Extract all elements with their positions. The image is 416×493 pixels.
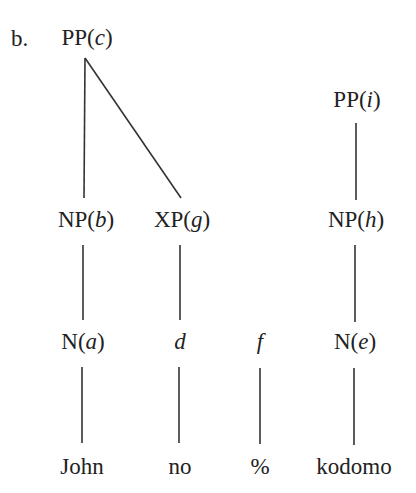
node-index: i [367,87,373,112]
node-category: XP [154,207,183,232]
node-index: b [95,207,107,232]
word-kodomo: kodomo [316,455,391,478]
node-index: g [191,207,203,232]
node-index: c [95,25,105,50]
word-percent: % [250,455,269,478]
node-np-b: NP(b) [58,208,114,231]
word-john: John [60,455,103,478]
node-np-h: NP(h) [328,208,384,231]
node-category: N [61,329,78,354]
node-n-a: N(a) [61,330,104,353]
node-index: h [365,207,377,232]
example-label: b. [11,26,28,52]
node-d: d [174,330,186,353]
node-f: f [257,330,263,353]
word-no: no [169,455,192,478]
node-pp-i: PP(i) [333,88,380,111]
node-index: a [86,329,98,354]
node-n-e: N(e) [334,330,376,353]
node-category: N [334,329,351,354]
node-category: NP [328,207,357,232]
node-index: e [358,329,368,354]
edge-ppc-xpg [85,58,181,198]
node-category: NP [58,207,87,232]
edge-ppc-npb [84,58,85,198]
node-category: PP [61,25,87,50]
node-pp-c: PP(c) [61,26,112,49]
node-xp-g: XP(g) [154,208,210,231]
tree-edges [0,0,416,493]
node-category: PP [333,87,359,112]
